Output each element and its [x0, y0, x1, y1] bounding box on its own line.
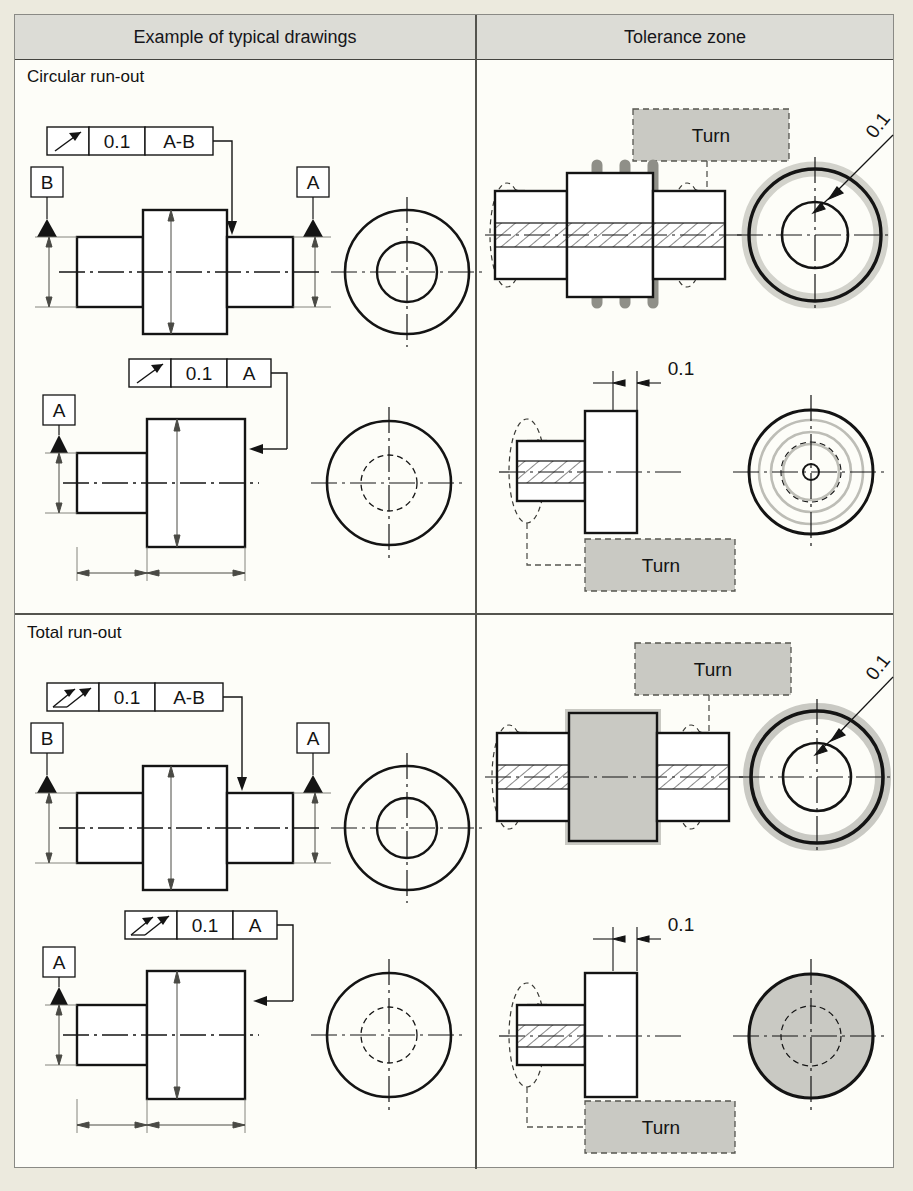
- tolerance-value: 0.1: [186, 363, 212, 384]
- zone-radial-circular-runout: Turn: [485, 107, 895, 357]
- end-view: [331, 753, 483, 903]
- zone-callout-value: 0.1: [668, 914, 694, 935]
- datum-reference: A: [249, 915, 262, 936]
- end-view: [311, 959, 467, 1113]
- datum-reference: A: [243, 363, 256, 384]
- end-view-zone: [733, 959, 889, 1113]
- column-header-tolerance-zone: Tolerance zone: [475, 15, 895, 60]
- zone-width-dimension: [593, 927, 661, 971]
- datum-reference: A-B: [163, 131, 195, 152]
- datum-b-letter: B: [41, 728, 54, 749]
- datum-a-letter: A: [307, 728, 320, 749]
- runout-tolerance-table: Example of typical drawings Tolerance zo…: [14, 14, 894, 1168]
- datum-a-letter: A: [53, 952, 66, 973]
- end-view-zone: [737, 157, 893, 313]
- datum-a-letter: A: [307, 172, 320, 193]
- end-view: [311, 407, 467, 561]
- table-header-row: Example of typical drawings Tolerance zo…: [15, 15, 893, 60]
- section-label-circular-run-out: Circular run-out: [27, 67, 144, 87]
- zone-axial-total-runout: 0.1 Turn: [485, 905, 895, 1167]
- zone-width-dimension: [593, 371, 661, 415]
- drawing-axial-circular-runout: 0.1 A A: [19, 353, 474, 603]
- turn-label: Turn: [642, 555, 680, 576]
- datum-reference: A-B: [173, 687, 205, 708]
- end-view-zone: [739, 699, 895, 855]
- zone-callout-value: 0.1: [861, 108, 894, 142]
- section-label-total-run-out: Total run-out: [27, 623, 122, 643]
- turn-label: Turn: [642, 1117, 680, 1138]
- zone-axial-circular-runout: 0.1 Turn: [485, 353, 895, 608]
- page-background: Example of typical drawings Tolerance zo…: [0, 0, 913, 1191]
- section-divider: [15, 613, 893, 615]
- drawing-radial-circular-runout: 0.1 A-B B A: [19, 107, 474, 347]
- turn-label: Turn: [692, 125, 730, 146]
- datum-b-letter: B: [41, 172, 54, 193]
- tolerance-value: 0.1: [114, 687, 140, 708]
- turn-label: Turn: [694, 659, 732, 680]
- column-divider: [475, 15, 477, 1169]
- zone-radial-total-runout: Turn: [485, 629, 895, 899]
- zone-callout-value: 0.1: [861, 650, 894, 684]
- end-view-zone: [733, 395, 889, 549]
- end-view: [331, 197, 483, 347]
- zone-callout-value: 0.1: [668, 358, 694, 379]
- datum-a-letter: A: [53, 400, 66, 421]
- drawing-axial-total-runout: 0.1 A A: [19, 905, 474, 1160]
- drawing-radial-total-runout: 0.1 A-B B A: [19, 663, 474, 903]
- column-header-examples: Example of typical drawings: [15, 15, 475, 60]
- tolerance-value: 0.1: [192, 915, 218, 936]
- tolerance-value: 0.1: [104, 131, 130, 152]
